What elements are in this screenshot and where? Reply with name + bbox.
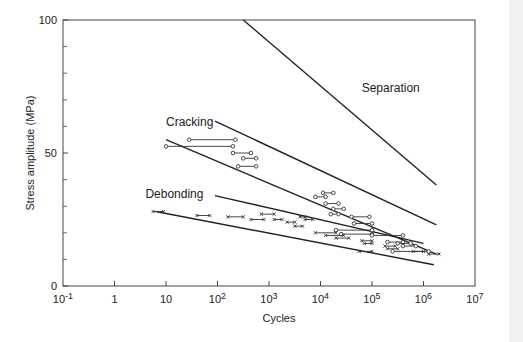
cracking-point — [332, 191, 336, 195]
cracking-point — [236, 165, 240, 169]
x-tick-label: 1 — [111, 293, 117, 305]
cracking-point — [231, 145, 235, 149]
x-tick-label: 10 — [160, 293, 172, 305]
line-cracking-upper-bound — [215, 121, 436, 225]
x-tick-label: 103 — [260, 291, 277, 305]
cracking-point — [249, 151, 253, 155]
cracking-point — [342, 207, 346, 211]
cracking-point — [254, 165, 258, 169]
x-tick-label: 107 — [466, 291, 483, 305]
cracking-point — [386, 240, 390, 244]
cracking-point — [329, 212, 333, 216]
cracking-point — [352, 222, 356, 226]
cracking-point — [414, 244, 418, 248]
cracking-point — [370, 228, 374, 232]
y-tick-label: 100 — [39, 14, 57, 26]
cracking-point — [241, 157, 245, 161]
cracking-point — [350, 215, 354, 219]
x-tick-label: 102 — [209, 291, 226, 305]
cracking-point — [332, 207, 336, 211]
line-debonding-lower-bound — [156, 212, 434, 265]
x-tick-label: 104 — [312, 291, 329, 305]
x-tick-label: 10-1 — [53, 291, 73, 305]
x-tick-label: 106 — [415, 291, 432, 305]
line-debonding-upper-bound — [215, 196, 424, 244]
cracking-point — [391, 250, 395, 254]
cracking-point — [231, 151, 235, 155]
x-tick-label: 105 — [363, 291, 380, 305]
cracking-point — [337, 202, 341, 206]
cracking-point — [401, 234, 405, 238]
cracking-point — [324, 195, 328, 199]
axes: 05010010-1110102103104105106107CyclesStr… — [24, 14, 484, 324]
y-tick-label: 0 — [51, 280, 57, 292]
cracking-point — [368, 215, 372, 219]
cracking-point — [234, 138, 238, 142]
cracking-point — [314, 195, 318, 199]
cracking-point — [164, 145, 168, 149]
cracking-point — [401, 244, 405, 248]
y-axis-label: Stress amplitude (MPa) — [24, 96, 36, 211]
sn-chart: 05010010-1110102103104105106107CyclesStr… — [0, 0, 523, 342]
annotation-cracking: Cracking — [166, 115, 213, 129]
cracking-point — [370, 234, 374, 238]
cracking-point — [324, 202, 328, 206]
cracking-point — [409, 242, 413, 246]
cracking-point — [187, 138, 191, 142]
labels: SeparationCrackingDebonding — [145, 81, 419, 201]
annotation-separation: Separation — [362, 81, 420, 95]
y-tick-label: 50 — [45, 147, 57, 159]
line-separation — [243, 20, 436, 185]
x-axis-label: Cycles — [262, 312, 296, 324]
cracking-point — [254, 157, 258, 161]
cracking-point — [321, 191, 325, 195]
cracking-point — [370, 222, 374, 226]
annotation-debonding: Debonding — [145, 187, 203, 201]
cracking-point — [337, 212, 341, 216]
